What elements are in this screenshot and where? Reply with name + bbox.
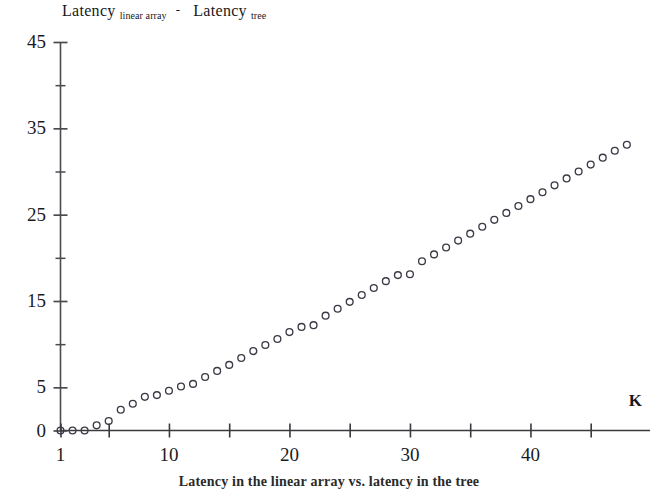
data-point-marker — [611, 147, 618, 154]
data-point-marker — [190, 380, 197, 387]
x-axis-tick-label: 30 — [390, 445, 430, 464]
y-axis-tick-label: 15 — [8, 291, 46, 310]
chart-plot-area — [0, 0, 658, 470]
data-point-marker — [166, 387, 173, 394]
data-point-marker — [238, 355, 245, 362]
y-axis-tick-label: 0 — [8, 421, 46, 440]
data-point-marker — [334, 305, 341, 312]
data-point-marker — [455, 237, 462, 244]
data-point-marker — [575, 168, 582, 175]
data-point-marker — [515, 203, 522, 210]
data-point-marker — [274, 336, 281, 343]
data-point-marker — [479, 223, 486, 230]
y-axis-tick-label: 25 — [8, 205, 46, 224]
x-axis-tick-label: 10 — [149, 445, 189, 464]
figure-container: Latencylinear array-Latencytree 05152535… — [0, 0, 658, 494]
x-axis-tick-label: 20 — [269, 445, 309, 464]
x-axis-title: K — [629, 391, 642, 411]
data-point-marker — [419, 258, 426, 265]
data-point-marker — [202, 374, 209, 381]
data-point-marker — [467, 230, 474, 237]
data-point-marker — [431, 251, 438, 258]
data-point-marker — [443, 244, 450, 251]
data-point-marker — [214, 368, 221, 375]
data-point-marker — [395, 272, 402, 279]
data-point-marker — [154, 392, 161, 399]
y-axis-tick-label: 35 — [8, 118, 46, 137]
data-point-marker — [286, 329, 293, 336]
data-point-marker — [503, 210, 510, 217]
x-axis-tick-label: 40 — [510, 445, 550, 464]
data-point-marker — [262, 342, 269, 349]
x-axis-tick-label: 1 — [41, 445, 81, 464]
data-point-marker — [105, 418, 112, 425]
data-point-marker — [599, 154, 606, 161]
data-point-marker — [407, 271, 414, 278]
data-point-marker — [587, 161, 594, 168]
axes-group — [61, 42, 651, 431]
y-axis-tick-label: 5 — [8, 377, 46, 396]
data-point-marker — [491, 216, 498, 223]
data-point-marker — [226, 361, 233, 368]
data-point-marker — [551, 182, 558, 189]
y-axis-tick-label: 45 — [8, 32, 46, 51]
data-point-marker — [527, 196, 534, 203]
data-point-marker — [382, 278, 389, 285]
data-point-markers — [57, 141, 630, 434]
data-point-marker — [117, 406, 124, 413]
data-point-marker — [563, 175, 570, 182]
data-point-marker — [310, 322, 317, 329]
data-point-marker — [141, 393, 148, 400]
data-point-marker — [298, 324, 305, 331]
data-point-marker — [250, 348, 257, 355]
figure-caption: Latency in the linear array vs. latency … — [0, 474, 658, 494]
data-point-marker — [129, 400, 136, 407]
data-point-marker — [322, 312, 329, 319]
data-point-marker — [539, 189, 546, 196]
data-point-marker — [93, 422, 100, 429]
data-point-marker — [178, 383, 185, 390]
data-point-marker — [358, 292, 365, 299]
data-point-marker — [370, 285, 377, 292]
data-point-marker — [623, 141, 630, 148]
data-point-marker — [346, 298, 353, 305]
